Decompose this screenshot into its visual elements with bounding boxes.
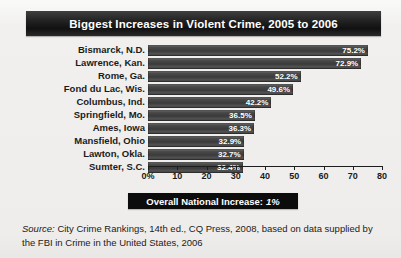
bar-value-label: 32.9% [219, 136, 245, 147]
page-title: Biggest Increases in Violent Crime, 2005… [69, 18, 338, 30]
bar-container: 32.9% [148, 135, 244, 147]
x-axis-tick [294, 166, 295, 170]
bar-container: 49.6% [148, 83, 293, 95]
bar: 52.2% [148, 71, 301, 82]
bar: 36.5% [148, 110, 255, 121]
bar-category-label: Ames, Iowa [0, 122, 145, 134]
bar-row: Lawton, Okla.32.7% [0, 148, 401, 160]
x-axis-tick-label: 50 [289, 171, 299, 181]
bar-row: Columbus, Ind.42.2% [0, 96, 401, 108]
bar: 72.9% [148, 58, 361, 69]
bar-value-label: 42.2% [246, 97, 272, 108]
x-axis-tick-label: 60 [318, 171, 328, 181]
bar-container: 32.7% [148, 148, 244, 160]
bar: 32.4% [148, 162, 243, 173]
x-axis-tick-label: 10 [172, 171, 182, 181]
source-note: Source: City Crime Rankings, 14th ed., C… [22, 222, 382, 249]
bar-container: 32.4% [148, 161, 243, 173]
bar-container: 36.5% [148, 109, 255, 121]
bar: 49.6% [148, 84, 293, 95]
bar-container: 42.2% [148, 96, 271, 108]
bar-value-label: 36.5% [229, 110, 255, 121]
bar-row: Fond du Lac, Wis.49.6% [0, 83, 401, 95]
bar-container: 75.2% [148, 44, 368, 56]
bar-category-label: Sumter, S.C. [0, 161, 145, 173]
callout-label: Overall National Increase: [146, 196, 263, 207]
bar-value-label: 72.9% [336, 58, 362, 69]
bar-category-label: Columbus, Ind. [0, 96, 145, 108]
bar-category-label: Mansfield, Ohio [0, 135, 145, 147]
bar-row: Springfield, Mo.36.5% [0, 109, 401, 121]
bar-row: Lawrence, Kan.72.9% [0, 57, 401, 69]
bar-value-label: 52.2% [275, 71, 301, 82]
bar-row: Bismarck, N.D.75.2% [0, 44, 401, 56]
bar-category-label: Springfield, Mo. [0, 109, 145, 121]
x-axis-tick-label: 30 [231, 171, 241, 181]
bar-value-label: 32.7% [218, 149, 244, 160]
x-axis-tick [353, 166, 354, 170]
bar-category-label: Rome, Ga. [0, 70, 145, 82]
bar-row: Rome, Ga.52.2% [0, 70, 401, 82]
x-axis-tick-label: 40 [260, 171, 270, 181]
bar: 32.9% [148, 136, 244, 147]
bar: 75.2% [148, 45, 368, 56]
x-axis-tick [148, 166, 149, 170]
x-axis-tick [382, 166, 383, 170]
x-axis: 0%1020304050607080 [148, 166, 382, 167]
bar: 42.2% [148, 97, 271, 108]
bar-value-label: 75.2% [342, 45, 368, 56]
chart-title-banner: Biggest Increases in Violent Crime, 2005… [26, 11, 381, 36]
bar-category-label: Lawrence, Kan. [0, 57, 145, 69]
x-axis-tick [324, 166, 325, 170]
overall-national-increase-callout: Overall National Increase: 1% [128, 193, 298, 209]
x-axis-tick-label: 20 [201, 171, 211, 181]
x-axis-tick-label: 0% [141, 171, 154, 181]
bar: 32.7% [148, 149, 244, 160]
bar-category-label: Bismarck, N.D. [0, 44, 145, 56]
bar: 36.3% [148, 123, 254, 134]
bar-row: Ames, Iowa36.3% [0, 122, 401, 134]
bar-value-label: 49.6% [267, 84, 293, 95]
bar-container: 36.3% [148, 122, 254, 134]
source-label: Source: [22, 223, 55, 234]
bar-value-label: 36.3% [228, 123, 254, 134]
x-axis-tick [236, 166, 237, 170]
bar-category-label: Fond du Lac, Wis. [0, 83, 145, 95]
source-text: City Crime Rankings, 14th ed., CQ Press,… [22, 223, 373, 248]
bar-container: 72.9% [148, 57, 361, 69]
bar-category-label: Lawton, Okla. [0, 148, 145, 160]
bar-rows: Bismarck, N.D.75.2%Lawrence, Kan.72.9%Ro… [0, 44, 401, 174]
chart-figure: Biggest Increases in Violent Crime, 2005… [0, 0, 401, 258]
x-axis-tick-label: 80 [377, 171, 387, 181]
x-axis-tick [265, 166, 266, 170]
bar-row: Mansfield, Ohio32.9% [0, 135, 401, 147]
x-axis-tick [177, 166, 178, 170]
bar-container: 52.2% [148, 70, 301, 82]
callout-value: 1% [266, 196, 280, 207]
bar-chart: Bismarck, N.D.75.2%Lawrence, Kan.72.9%Ro… [0, 44, 401, 174]
x-axis-tick [207, 166, 208, 170]
x-axis-tick-label: 70 [348, 171, 358, 181]
